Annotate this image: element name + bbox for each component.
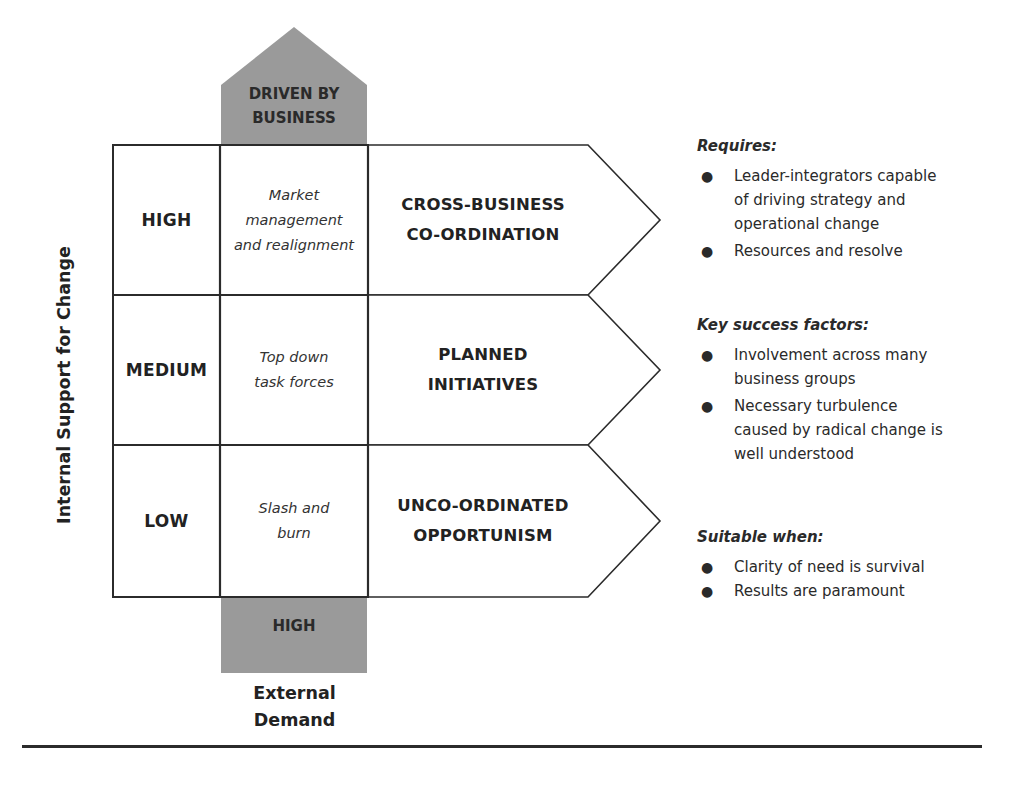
- approach-line: Top down: [260, 345, 329, 370]
- level-label-low: LOW: [113, 445, 220, 597]
- external-demand-level-label: HIGH: [221, 612, 367, 640]
- mode-line: CROSS-BUSINESS: [401, 190, 565, 220]
- list-item: ● Leader-integrators capable of driving …: [697, 164, 997, 236]
- bullet-icon: ●: [701, 394, 713, 418]
- suitable-when-section: Suitable when: ● Clarity of need is surv…: [697, 528, 997, 606]
- level-label-high: HIGH: [113, 145, 220, 295]
- mode-label-low: UNCO-ORDINATED OPPORTUNISM: [368, 445, 598, 597]
- list-item-line: Resources and resolve: [734, 239, 997, 263]
- key-success-factors-heading: Key success factors:: [697, 316, 997, 334]
- suitable-when-list: ● Clarity of need is survival ● Results …: [697, 555, 997, 603]
- mode-line: PLANNED: [438, 340, 527, 370]
- level-label-medium: MEDIUM: [113, 295, 220, 445]
- key-success-factors-section: Key success factors: ● Involvement acros…: [697, 316, 997, 469]
- list-item-line: well understood: [734, 442, 997, 466]
- approach-line: Slash and: [259, 496, 330, 521]
- list-item-line: Leader-integrators capable: [734, 164, 997, 188]
- requires-section: Requires: ● Leader-integrators capable o…: [697, 137, 997, 266]
- requires-heading: Requires:: [697, 137, 997, 155]
- bottom-divider: [22, 745, 982, 748]
- list-item-line: Necessary turbulence: [734, 394, 997, 418]
- list-item: ● Results are paramount: [697, 579, 997, 603]
- mode-line: INITIATIVES: [428, 370, 539, 400]
- y-axis-label: Internal Support for Change: [54, 246, 74, 524]
- bullet-icon: ●: [701, 164, 713, 188]
- top-label-line: BUSINESS: [252, 106, 336, 130]
- approach-line: Market: [269, 183, 319, 208]
- approach-line: task forces: [254, 370, 334, 395]
- top-label-line: DRIVEN BY: [249, 82, 340, 106]
- approach-label-low: Slash and burn: [220, 445, 368, 597]
- list-item-line: Involvement across many: [734, 343, 997, 367]
- requires-list: ● Leader-integrators capable of driving …: [697, 164, 997, 263]
- list-item: ● Resources and resolve: [697, 239, 997, 263]
- bullet-icon: ●: [701, 239, 713, 263]
- approach-label-high: Market management and realignment: [220, 145, 368, 295]
- list-item: ● Clarity of need is survival: [697, 555, 997, 579]
- key-success-factors-list: ● Involvement across many business group…: [697, 343, 997, 466]
- mode-label-medium: PLANNED INITIATIVES: [368, 295, 598, 445]
- list-item-line: Results are paramount: [734, 579, 997, 603]
- suitable-when-heading: Suitable when:: [697, 528, 997, 546]
- bullet-icon: ●: [701, 579, 713, 603]
- list-item-line: operational change: [734, 212, 997, 236]
- bullet-icon: ●: [701, 343, 713, 367]
- list-item-line: business groups: [734, 367, 997, 391]
- mode-line: OPPORTUNISM: [413, 521, 552, 551]
- x-axis-label-line: Demand: [221, 707, 368, 734]
- bullet-icon: ●: [701, 555, 713, 579]
- driven-by-business-label: DRIVEN BY BUSINESS: [221, 78, 367, 134]
- list-item-line: of driving strategy and: [734, 188, 997, 212]
- approach-label-medium: Top down task forces: [220, 295, 368, 445]
- mode-line: UNCO-ORDINATED: [397, 491, 568, 521]
- list-item: ● Necessary turbulence caused by radical…: [697, 394, 997, 466]
- mode-line: CO-ORDINATION: [407, 220, 560, 250]
- x-axis-label: External Demand: [221, 680, 368, 734]
- approach-line: and realignment: [234, 233, 354, 258]
- list-item-line: caused by radical change is: [734, 418, 997, 442]
- list-item: ● Involvement across many business group…: [697, 343, 997, 391]
- list-item-line: Clarity of need is survival: [734, 555, 997, 579]
- mode-label-high: CROSS-BUSINESS CO-ORDINATION: [368, 145, 598, 295]
- x-axis-label-line: External: [221, 680, 368, 707]
- approach-line: management: [245, 208, 342, 233]
- approach-line: burn: [277, 521, 311, 546]
